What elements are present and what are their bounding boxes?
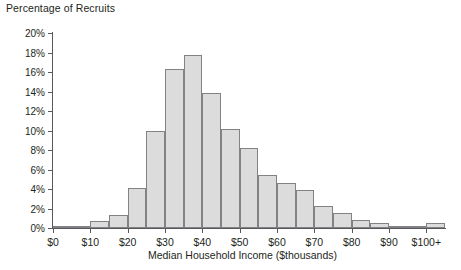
x-tick-label: $50 [231,236,249,248]
x-tick-label: $70 [306,236,324,248]
y-tick-mark [48,170,53,171]
y-tick-label: 8% [31,145,45,156]
bar [314,206,333,228]
x-tick-mark [128,229,129,233]
x-tick-mark [90,229,91,233]
x-tick-mark [352,229,353,233]
x-tick-mark [277,229,278,233]
y-tick-mark [48,33,53,34]
y-tick-mark [48,72,53,73]
y-tick-label: 12% [25,106,45,117]
bar [277,183,296,228]
bar [426,223,445,228]
x-tick-mark [314,229,315,233]
y-tick-label: 20% [25,28,45,39]
bar [258,175,277,228]
bar [90,221,109,228]
bar [370,223,389,228]
bar [408,226,427,228]
y-tick-label: 10% [25,125,45,136]
bar [296,190,315,228]
y-tick-label: 18% [25,47,45,58]
bar [146,131,165,229]
bar [389,226,408,228]
x-tick-mark [426,229,427,233]
x-tick-mark [165,229,166,233]
x-tick-label: $100+ [412,236,442,248]
bar [128,188,147,228]
x-tick-label: $20 [119,236,137,248]
x-tick-label: $80 [343,236,361,248]
y-tick-mark [48,131,53,132]
x-tick-label: $30 [156,236,174,248]
x-tick-label: $40 [194,236,212,248]
x-tick-mark [53,229,54,233]
bar [221,129,240,228]
y-tick-label: 6% [31,164,45,175]
y-tick-label: 0% [31,223,45,234]
bar [333,213,352,228]
y-tick-mark [48,209,53,210]
bar-series [53,33,445,228]
y-tick-mark [48,53,53,54]
bar [53,226,72,228]
bar [72,226,91,228]
y-tick-mark [48,92,53,93]
x-tick-mark [240,229,241,233]
chart-title: Percentage of Recruits [6,2,115,14]
bar [184,55,203,228]
y-tick-mark [48,150,53,151]
y-tick-label: 2% [31,203,45,214]
y-tick-label: 4% [31,184,45,195]
x-tick-label: $0 [47,236,59,248]
y-tick-label: 16% [25,67,45,78]
bar [165,69,184,228]
x-tick-mark [389,229,390,233]
x-axis-title: Median Household Income ($thousands) [0,249,461,261]
y-tick-mark [48,189,53,190]
x-tick-mark [202,229,203,233]
y-tick-label: 14% [25,86,45,97]
y-tick-mark [48,111,53,112]
x-tick-label: $90 [380,236,398,248]
histogram-chart: Percentage of Recruits 0%2%4%6%8%10%12%1… [0,0,461,270]
bar [109,215,128,228]
plot-area: 0%2%4%6%8%10%12%14%16%18%20% [53,33,445,228]
bar [202,93,221,228]
bar [352,220,371,228]
x-axis-title-text: Median Household Income ($thousands) [148,249,337,261]
x-tick-label: $10 [82,236,100,248]
x-tick-label: $60 [268,236,286,248]
bar [240,148,259,228]
